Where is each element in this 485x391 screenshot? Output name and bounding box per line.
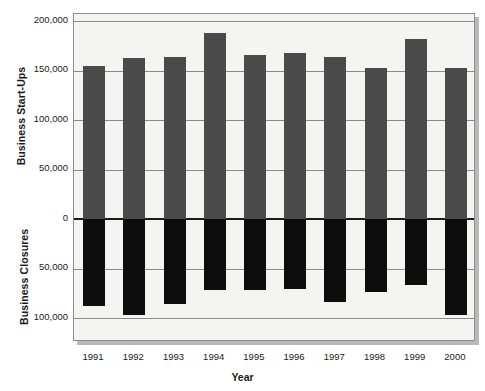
bar-startups-1994 [204, 33, 226, 219]
x-axis-tick-label-1995: 1995 [234, 351, 274, 362]
bar-closures-1993 [164, 219, 186, 304]
x-axis-tick-label-1994: 1994 [194, 351, 234, 362]
bar-startups-2000 [445, 68, 467, 219]
bar-startups-1995 [244, 55, 266, 219]
bar-startups-1997 [324, 57, 346, 219]
bar-closures-1992 [123, 219, 145, 315]
bar-closures-1996 [284, 219, 306, 289]
x-axis-tick-label-1999: 1999 [395, 351, 435, 362]
x-axis-tick-label-1996: 1996 [274, 351, 314, 362]
bar-closures-1995 [244, 219, 266, 290]
y-axis-tick-labels: 200,000150,000100,00050,000050,000100,00… [10, 0, 68, 391]
bar-closures-1999 [405, 219, 427, 285]
x-axis-tick-label-1998: 1998 [355, 351, 395, 362]
y-axis-tick-label: 150,000 [10, 63, 68, 74]
plot-area [73, 13, 475, 341]
bar-startups-1993 [164, 57, 186, 219]
y-axis-tick-label: 50,000 [10, 261, 68, 272]
bar-startups-1999 [405, 39, 427, 219]
bar-closures-2000 [445, 219, 467, 315]
bar-closures-1997 [324, 219, 346, 302]
bar-startups-1998 [365, 68, 387, 219]
x-axis-tick-label-1991: 1991 [73, 351, 113, 362]
y-axis-tick-label: 50,000 [10, 162, 68, 173]
bar-startups-1992 [123, 58, 145, 219]
bar-closures-1994 [204, 219, 226, 290]
bar-chart-figure: Business Start-Ups Business Closures 200… [0, 0, 485, 391]
x-axis-tick-label-1997: 1997 [314, 351, 354, 362]
bar-closures-1991 [83, 219, 105, 306]
bar-startups-1996 [284, 53, 306, 219]
y-axis-tick-label: 0 [10, 212, 68, 223]
gridline [74, 21, 474, 22]
bar-closures-1998 [365, 219, 387, 292]
x-axis-tick-label-1993: 1993 [154, 351, 194, 362]
x-axis-tick-label-2000: 2000 [435, 351, 475, 362]
y-axis-tick-label: 200,000 [10, 14, 68, 25]
x-axis-tick-label-1992: 1992 [113, 351, 153, 362]
y-axis-tick-label: 100,000 [10, 113, 68, 124]
gridline [74, 318, 474, 319]
y-axis-tick-label: 100,000 [10, 311, 68, 322]
x-axis-title: Year [0, 371, 485, 383]
bar-startups-1991 [83, 66, 105, 219]
